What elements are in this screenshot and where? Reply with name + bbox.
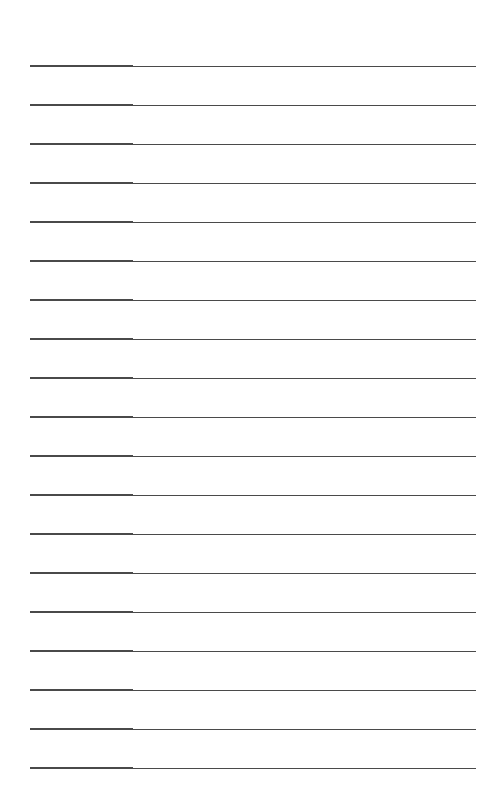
ruled-line-right-segment bbox=[133, 534, 476, 536]
ruled-line-left-segment bbox=[30, 143, 133, 145]
ruled-line-left-segment bbox=[30, 377, 133, 379]
ruled-line-left-segment bbox=[30, 221, 133, 223]
ruled-line bbox=[30, 455, 476, 458]
ruled-line bbox=[30, 299, 476, 302]
ruled-line-left-segment bbox=[30, 65, 133, 67]
ruled-line-right-segment bbox=[133, 222, 476, 224]
ruled-line-right-segment bbox=[133, 651, 476, 653]
ruled-line-right-segment bbox=[133, 339, 476, 341]
ruled-line-right-segment bbox=[133, 105, 476, 107]
ruled-line bbox=[30, 416, 476, 419]
ruled-line-left-segment bbox=[30, 572, 133, 574]
ruled-line-right-segment bbox=[133, 612, 476, 614]
ruled-line-right-segment bbox=[133, 417, 476, 419]
ruled-line-right-segment bbox=[133, 66, 476, 68]
ruled-line bbox=[30, 650, 476, 653]
ruled-line bbox=[30, 182, 476, 185]
ruled-line bbox=[30, 572, 476, 575]
ruled-line bbox=[30, 260, 476, 263]
ruled-line bbox=[30, 533, 476, 536]
ruled-line-left-segment bbox=[30, 611, 133, 613]
ruled-line bbox=[30, 689, 476, 692]
ruled-line bbox=[30, 494, 476, 497]
ruled-line-right-segment bbox=[133, 300, 476, 302]
ruled-line-left-segment bbox=[30, 104, 133, 106]
ruled-line-left-segment bbox=[30, 494, 133, 496]
ruled-line bbox=[30, 338, 476, 341]
ruled-line-right-segment bbox=[133, 690, 476, 692]
ruled-line-left-segment bbox=[30, 260, 133, 262]
ruled-line-right-segment bbox=[133, 573, 476, 575]
ruled-line bbox=[30, 143, 476, 146]
ruled-line-left-segment bbox=[30, 650, 133, 652]
ruled-line-right-segment bbox=[133, 768, 476, 770]
ruled-line-right-segment bbox=[133, 729, 476, 731]
ruled-line-left-segment bbox=[30, 338, 133, 340]
ruled-line bbox=[30, 767, 476, 770]
ruled-line bbox=[30, 728, 476, 731]
lined-paper-page bbox=[0, 0, 498, 803]
ruled-line-left-segment bbox=[30, 533, 133, 535]
ruled-line bbox=[30, 221, 476, 224]
ruled-line-left-segment bbox=[30, 689, 133, 691]
ruled-line-left-segment bbox=[30, 767, 133, 769]
ruled-line bbox=[30, 377, 476, 380]
ruled-line-left-segment bbox=[30, 728, 133, 730]
ruled-line-left-segment bbox=[30, 182, 133, 184]
ruled-line-right-segment bbox=[133, 183, 476, 185]
ruled-line bbox=[30, 104, 476, 107]
ruled-line-right-segment bbox=[133, 378, 476, 380]
ruled-line-left-segment bbox=[30, 455, 133, 457]
ruled-line bbox=[30, 611, 476, 614]
ruled-line-left-segment bbox=[30, 416, 133, 418]
ruled-line-right-segment bbox=[133, 456, 476, 458]
ruled-line-left-segment bbox=[30, 299, 133, 301]
ruled-line-right-segment bbox=[133, 495, 476, 497]
ruled-line-right-segment bbox=[133, 261, 476, 263]
ruled-line-right-segment bbox=[133, 144, 476, 146]
ruled-line bbox=[30, 65, 476, 68]
